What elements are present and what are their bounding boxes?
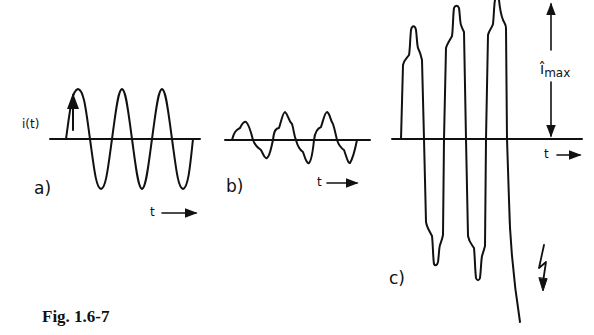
figure-caption: Fig. 1.6-7 [42,307,110,327]
imax-label: îmax [540,60,570,80]
panel-c-label: c) [389,268,405,288]
panel-a-plot [50,89,200,213]
panel-c-x-label: t [544,147,549,161]
panel-a-y-label: i(t) [22,117,39,131]
panel-c-growing-wave [401,0,520,322]
lightning-icon [539,245,546,282]
panel-b-label: b) [226,176,243,196]
panel-b-distorted-wave [232,112,357,163]
figure-canvas [0,0,594,335]
lightning-arrowhead-icon [539,278,547,291]
panel-c-plot [392,0,582,322]
panel-b-x-label: t [317,175,322,189]
imax-subscript: max [544,66,570,80]
panel-b-plot [225,112,370,183]
panel-a-label: a) [34,178,51,198]
panel-a-x-label: t [150,205,155,219]
